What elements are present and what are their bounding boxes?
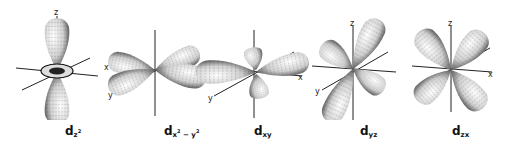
axis-label-z: z (350, 19, 354, 28)
dz2-orbital-drawing: z (0, 0, 110, 120)
orbital-dyz: z y dyz (300, 0, 410, 147)
axis-label-y: y (108, 91, 113, 100)
axis-label-z: z (448, 19, 452, 28)
lobe-left (196, 60, 256, 83)
orbital-dxy: x y dxy (190, 0, 310, 147)
lobe-upper-left (410, 24, 461, 78)
lower-lobe (45, 72, 70, 120)
dzx-orbital-drawing: z x (400, 0, 510, 120)
label-dxy: dxy (254, 124, 272, 139)
axis-label-z: z (54, 8, 58, 17)
orbital-dz2: z dz2 (0, 0, 110, 147)
dxy-orbital-drawing: x y (190, 0, 310, 120)
axis-label-x: x (104, 63, 109, 72)
axis-label-y: y (208, 94, 213, 103)
label-dyz: dyz (360, 124, 377, 139)
label-dz2: dz2 (65, 124, 81, 139)
dyz-orbital-drawing: z y (300, 0, 410, 120)
orbital-dzx: z x dzx (400, 0, 510, 147)
upper-lobe (45, 18, 70, 70)
axis-label-y: y (315, 87, 320, 96)
label-dzx: dzx (452, 124, 469, 139)
axis-label-x: x (488, 70, 493, 79)
torus-hole (49, 68, 65, 75)
